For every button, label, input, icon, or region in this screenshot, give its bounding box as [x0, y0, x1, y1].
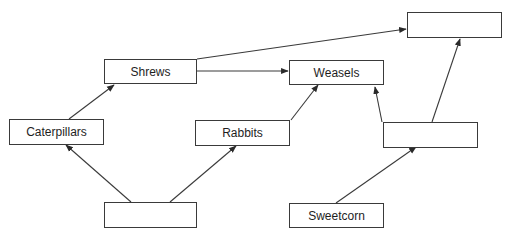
node-rabbits: Rabbits	[195, 120, 290, 146]
node-weasels: Weasels	[289, 60, 384, 85]
arrow-bottom_blank-to-rabbits	[170, 146, 236, 202]
node-caterpillars: Caterpillars	[9, 119, 104, 145]
node-sweetcorn: Sweetcorn	[289, 203, 384, 228]
node-shrews: Shrews	[104, 59, 197, 84]
node-top-right-blank	[407, 12, 502, 38]
arrow-sweetcorn-to-right_middle_blank	[336, 147, 416, 203]
node-label: Rabbits	[222, 126, 263, 140]
arrow-right_middle_blank-to-weasels	[375, 87, 382, 122]
food-web-diagram: ShrewsWeaselsCaterpillarsRabbitsSweetcor…	[0, 0, 508, 233]
node-label: Sweetcorn	[308, 209, 365, 223]
node-bottom-blank	[104, 202, 197, 228]
arrow-shrews-to-top_right_blank	[197, 29, 406, 59]
arrow-bottom_blank-to-caterpillars	[66, 145, 131, 202]
node-right-middle-blank	[383, 122, 478, 148]
arrow-caterpillars-to-shrews	[69, 85, 114, 119]
arrow-rabbits-to-weasels	[291, 85, 318, 120]
node-label: Caterpillars	[26, 125, 87, 139]
node-label: Weasels	[314, 66, 360, 80]
node-label: Shrews	[130, 65, 170, 79]
arrow-right_middle_blank-to-top_right_blank	[432, 39, 460, 122]
